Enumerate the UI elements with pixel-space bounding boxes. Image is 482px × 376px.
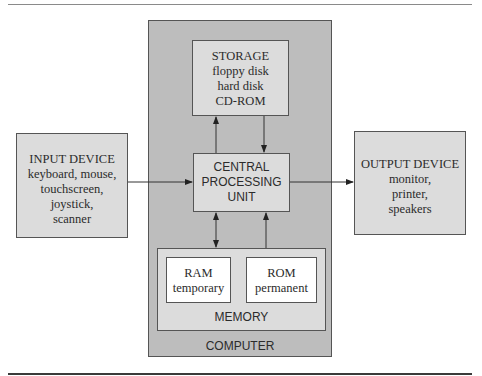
connector-arrows [0,0,482,376]
bottom-rule [8,373,472,375]
